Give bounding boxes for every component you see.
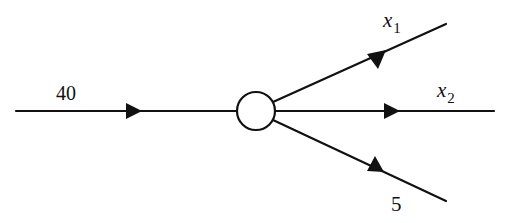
outflow-x2-label: x2 bbox=[436, 78, 455, 106]
junction-node bbox=[237, 92, 275, 130]
inflow-label: 40 bbox=[56, 82, 76, 104]
outflow-5-edge bbox=[273, 120, 446, 201]
arrow-right-icon bbox=[384, 103, 400, 119]
outflow-5-label: 5 bbox=[391, 192, 402, 216]
arrow-right-icon bbox=[126, 103, 142, 119]
outflow-x1-label: x1 bbox=[382, 8, 401, 36]
flow-diagram: 40 x1 x2 5 bbox=[0, 0, 506, 223]
outflow-x1-edge bbox=[273, 24, 446, 102]
